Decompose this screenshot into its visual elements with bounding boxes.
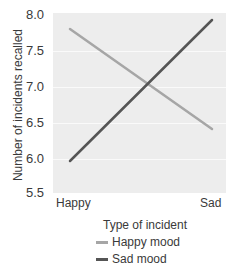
legend-label-happy: Happy mood	[112, 235, 180, 249]
sad-mood-line	[70, 20, 212, 161]
chart-lines	[0, 0, 238, 274]
legend-swatch-happy-icon	[96, 241, 108, 244]
x-tick-sad: Sad	[200, 196, 221, 210]
happy-mood-line	[70, 29, 212, 129]
legend-label-sad: Sad mood	[112, 252, 167, 266]
legend-item-happy-mood: Happy mood	[96, 235, 180, 249]
legend-swatch-sad-icon	[96, 258, 108, 261]
x-axis-label: Type of incident	[70, 218, 220, 232]
legend-item-sad-mood: Sad mood	[96, 252, 167, 266]
x-tick-happy: Happy	[56, 196, 91, 210]
